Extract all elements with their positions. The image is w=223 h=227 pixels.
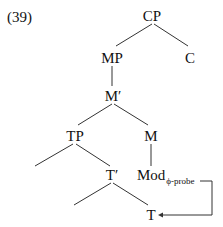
tree-branches — [0, 0, 223, 227]
node-M: M — [144, 128, 157, 144]
node-Mod: Modϕ-probe — [137, 167, 195, 185]
branch-Tbar-T — [113, 183, 148, 205]
agree-arrow-line — [160, 181, 212, 215]
example-number: (39) — [7, 9, 32, 25]
node-Mod-label: Mod — [137, 167, 165, 183]
branch-TP-Tbar — [76, 144, 110, 166]
branch-CP-MP — [116, 24, 152, 46]
branch-Mbar-TP — [78, 104, 112, 125]
node-TP: TP — [66, 128, 84, 144]
branch-TP-spec — [35, 144, 73, 166]
branch-Tbar-spec — [74, 183, 111, 205]
node-Mod-subscript: ϕ-probe — [166, 176, 194, 186]
node-CP: CP — [143, 8, 161, 24]
node-T-bar: T′ — [106, 167, 118, 183]
node-M-bar: M′ — [105, 88, 122, 104]
node-MP: MP — [101, 50, 123, 66]
branch-CP-C — [154, 24, 188, 46]
agree-arrowhead-icon — [158, 213, 163, 218]
node-T: T — [146, 207, 155, 223]
node-C: C — [185, 50, 195, 66]
branch-Mbar-M — [114, 104, 148, 125]
